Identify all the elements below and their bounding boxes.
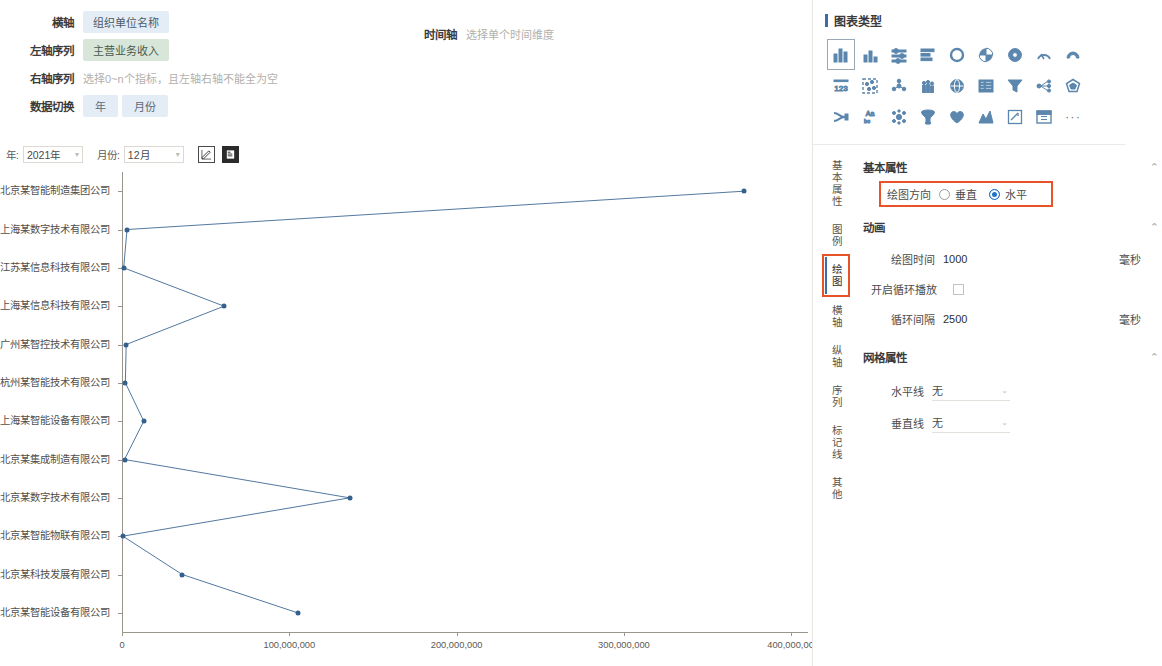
data-point[interactable] [222,304,227,309]
table-icon[interactable] [972,70,1000,101]
properties-tab-rail: 基本属性图例绘图横轴纵轴序列标记线其他 [825,145,853,645]
pie-icon[interactable] [972,39,1000,70]
plot-area: 0100,000,000200,000,000300,000,000400,00… [118,172,812,666]
data-switch-month[interactable]: 月份 [122,95,168,117]
data-point[interactable] [120,534,125,539]
data-point[interactable] [180,572,185,577]
timeline-config-row: 时间轴 选择单个时间维度 [424,26,554,42]
data-switch-group: 年 月份 [83,95,168,117]
edit-chart-icon[interactable] [1001,101,1029,132]
horizontal-line-label: 水平线 [891,383,924,399]
properties-tab-char: 图 [827,275,847,287]
category-label: 北京某智能制造集团公司 [0,186,110,196]
export-doc-icon[interactable] [222,146,239,163]
month-picker[interactable]: 12月 ▾ [124,146,184,163]
loop-interval-value[interactable]: 2500 [943,313,967,325]
data-point[interactable] [122,457,127,462]
ring-icon[interactable] [943,39,971,70]
mountain-area-icon[interactable] [972,101,1000,132]
category-label: 北京某数字技术有限公司 [0,493,110,503]
properties-tab-char: 横 [827,304,847,316]
data-point[interactable] [742,189,747,194]
horizontal-bar-icon[interactable] [914,39,942,70]
category-label: 江苏某信息科技有限公司 [0,263,110,273]
properties-tab-char: 纵 [827,344,847,356]
vertical-line-select[interactable]: 无 ⌄ [932,413,1010,433]
loop-playback-label: 开启循环播放 [871,281,937,297]
radio-horizontal[interactable] [989,189,1000,200]
globe-icon[interactable] [943,70,971,101]
network-icon[interactable] [885,70,913,101]
draw-time-unit: 毫秒 [1119,251,1141,267]
properties-tab-3[interactable]: 横轴 [825,298,847,334]
year-picker[interactable]: 2021年 ▾ [23,146,83,163]
right-properties-panel: 图表类型 123Aabc··· 基本属性图例绘图横轴纵轴序列标记线其他 基本属性… [812,0,1125,666]
tree-icon[interactable] [1030,70,1058,101]
data-switch-label: 数据切换 [12,98,74,114]
funnel-icon[interactable] [1001,70,1029,101]
pictogram-icon[interactable] [914,70,942,101]
timeline-placeholder[interactable]: 选择单个时间维度 [466,26,554,42]
properties-tab-5[interactable]: 序列 [825,378,847,414]
data-point[interactable] [347,495,352,500]
data-point[interactable] [125,227,130,232]
chevron-up-icon[interactable]: ⌃ [1150,351,1159,364]
draw-direction-vertical-label[interactable]: 垂直 [955,186,977,202]
column-chart-icon[interactable] [856,39,884,70]
number-123-icon[interactable]: 123 [827,70,855,101]
dot-plot-icon[interactable] [885,39,913,70]
data-point[interactable] [123,380,128,385]
grid-properties-section-header[interactable]: 网格属性 ⌃ [863,349,1159,365]
loop-playback-checkbox[interactable] [953,284,964,295]
data-switch-year[interactable]: 年 [83,95,118,117]
chevron-up-icon[interactable]: ⌃ [1150,221,1159,234]
bubble-cluster-icon[interactable] [885,101,913,132]
data-point[interactable] [295,610,300,615]
data-switch-row: 数据切换 年 月份 [0,92,812,120]
right-series-placeholder[interactable]: 选择0~n个指标，且左轴右轴不能全为空 [83,70,278,86]
left-series-value-tag[interactable]: 主营业务收入 [83,39,169,61]
properties-tab-2[interactable]: 绘图 [825,257,847,293]
half-gauge-icon[interactable] [1059,39,1087,70]
bar-chart-icon[interactable] [827,39,855,70]
right-series-config-row: 右轴序列 选择0~n个指标，且左轴右轴不能全为空 [0,64,812,92]
left-series-config-row: 左轴序列 主营业务收入 [0,36,812,64]
data-point[interactable] [121,265,126,270]
chevron-up-icon[interactable]: ⌃ [1150,161,1159,174]
gauge-icon[interactable] [1030,39,1058,70]
radio-vertical[interactable] [939,189,950,200]
horizontal-line-select[interactable]: 无 ⌄ [932,381,1010,401]
category-label: 北京某智能设备有限公司 [0,608,110,618]
draw-time-label: 绘图时间 [891,251,935,267]
animation-title: 动画 [863,219,885,235]
data-point[interactable] [141,419,146,424]
properties-tab-7[interactable]: 其他 [825,470,847,506]
basic-properties-section-header[interactable]: 基本属性 ⌃ [863,159,1159,175]
funnel-3d-icon[interactable] [914,101,942,132]
properties-tab-1[interactable]: 图例 [825,217,847,253]
x-axis-tick-label: 100,000,000 [263,640,315,650]
x-axis-value-tag[interactable]: 组织单位名称 [83,11,169,33]
draw-direction-row: 绘图方向 垂直 水平 [881,183,1051,205]
draw-time-value[interactable]: 1000 [943,253,967,265]
edit-square-icon[interactable] [198,146,215,163]
calendar-icon[interactable] [1030,101,1058,132]
svg-text:123: 123 [834,84,848,93]
properties-tab-0[interactable]: 基本属性 [825,153,847,213]
donut-icon[interactable] [1001,39,1029,70]
properties-tab-char: 他 [827,488,847,500]
sankey-icon[interactable] [827,101,855,132]
scatter-matrix-icon[interactable] [856,70,884,101]
radar-icon[interactable] [1059,70,1087,101]
vertical-line-value: 无 [932,414,943,430]
properties-tab-6[interactable]: 标记线 [825,418,847,466]
heart-map-icon[interactable] [943,101,971,132]
properties-tab-4[interactable]: 纵轴 [825,338,847,374]
right-series-label: 右轴序列 [12,70,74,86]
animation-section-header[interactable]: 动画 ⌃ [863,219,1159,235]
loop-interval-row: 循环间隔 2500 毫秒 [891,311,1159,327]
data-point[interactable] [124,342,129,347]
draw-direction-horizontal-label[interactable]: 水平 [1005,186,1027,202]
more-icon[interactable]: ··· [1059,101,1087,132]
word-cloud-icon[interactable]: Aabc [856,101,884,132]
